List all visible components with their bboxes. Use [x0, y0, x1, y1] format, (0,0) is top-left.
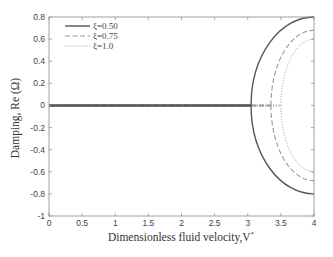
chart: 00.511.522.533.54 -1-0.8-0.6-0.4-0.200.2…: [0, 0, 333, 257]
x-tick-label: 0: [47, 218, 52, 228]
x-tick-label: 0.5: [76, 218, 88, 228]
series-upper-branch: [251, 17, 314, 105]
legend-label: ξ=0.75: [93, 31, 118, 41]
x-tick-label: 1.5: [142, 218, 154, 228]
curves: [49, 17, 314, 194]
series-lower-branch: [281, 105, 314, 171]
y-tick-label: -0.2: [30, 123, 45, 133]
series-upper-branch: [281, 39, 314, 105]
x-tick-label: 2: [179, 218, 184, 228]
y-tick-label: 0.6: [33, 34, 45, 44]
x-tick-label: 3.5: [275, 218, 287, 228]
y-tick-label: 0.8: [33, 12, 45, 22]
axes-box: [49, 17, 314, 216]
x-tick-label: 1: [113, 218, 118, 228]
x-axis-title: Dimensionless fluid velocity,V*: [108, 230, 255, 244]
legend: ξ=0.50ξ=0.75ξ=1.0: [65, 21, 118, 51]
y-tick-label: -0.8: [30, 189, 45, 199]
series-lower-branch: [271, 105, 314, 180]
x-tick-label: 3: [245, 218, 250, 228]
x-axis-ticks: 00.511.522.533.54: [47, 17, 317, 228]
axes-frame: [49, 17, 314, 216]
y-tick-label: -0.4: [30, 145, 45, 155]
x-tick-label: 2.5: [209, 218, 221, 228]
x-tick-label: 4: [312, 218, 317, 228]
y-tick-label: -1: [37, 211, 45, 221]
series-upper-branch: [271, 30, 314, 105]
y-tick-label: 0.4: [33, 56, 45, 66]
legend-label: ξ=1.0: [93, 41, 114, 51]
legend-label: ξ=0.50: [93, 21, 118, 31]
y-tick-label: 0.2: [33, 78, 45, 88]
series-lower-branch: [251, 105, 314, 193]
y-tick-label: -0.6: [30, 167, 45, 177]
y-tick-label: 0: [40, 100, 45, 110]
y-axis-title: Damping, Re (Ω): [9, 78, 22, 159]
